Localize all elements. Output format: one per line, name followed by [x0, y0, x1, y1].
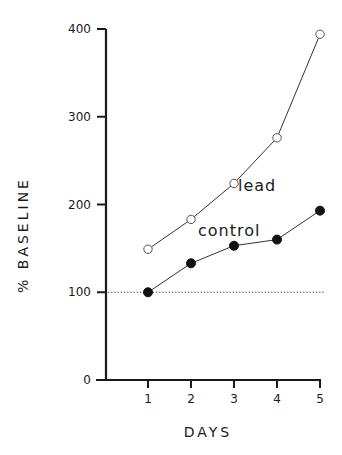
data-point-lead — [316, 30, 324, 38]
series-lines — [148, 34, 320, 292]
data-point-lead — [230, 179, 238, 187]
axes: 010020030040012345 — [68, 22, 324, 406]
line-chart: 010020030040012345 lead control DAYS % B… — [0, 0, 342, 455]
series-line-lead — [148, 34, 320, 249]
x-tick-label: 2 — [187, 392, 195, 406]
data-point-lead — [144, 245, 152, 253]
series-label-lead: lead — [238, 176, 276, 195]
series-markers — [144, 30, 325, 297]
data-point-control — [316, 206, 325, 215]
data-point-control — [230, 241, 239, 250]
y-axis-title: % BASELINE — [15, 177, 31, 293]
data-point-control — [273, 235, 282, 244]
x-tick-label: 1 — [144, 392, 152, 406]
x-axis-title: DAYS — [184, 424, 232, 440]
y-tick-label: 200 — [68, 198, 91, 212]
y-tick-label: 0 — [83, 373, 91, 387]
data-point-control — [187, 259, 196, 268]
series-label-control: control — [198, 221, 260, 240]
x-tick-label: 5 — [316, 392, 324, 406]
x-tick-label: 3 — [230, 392, 238, 406]
y-tick-label: 400 — [68, 22, 91, 36]
data-point-lead — [187, 215, 195, 223]
data-point-lead — [273, 134, 281, 142]
data-point-control — [144, 288, 153, 297]
y-tick-label: 100 — [68, 285, 91, 299]
x-tick-label: 4 — [273, 392, 281, 406]
y-tick-label: 300 — [68, 110, 91, 124]
